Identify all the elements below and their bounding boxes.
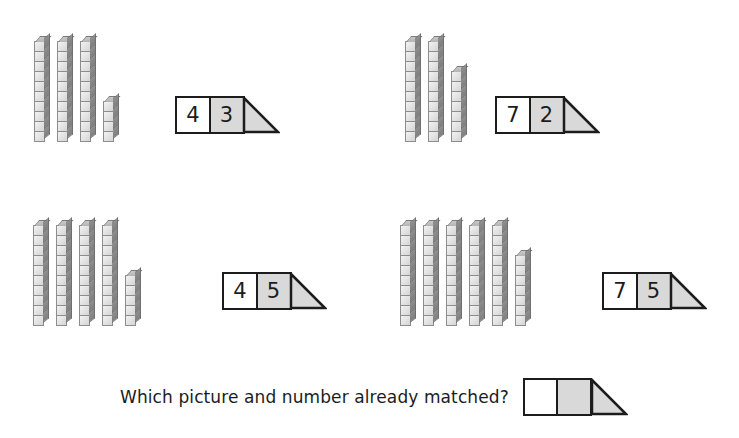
ten-rod <box>492 226 503 326</box>
unit-cube <box>102 285 113 296</box>
unit-cube <box>125 275 136 286</box>
number-card-4-ones[interactable]: 5 <box>636 272 672 310</box>
unit-cube <box>57 71 68 82</box>
unit-cube <box>492 295 503 306</box>
unit-cube <box>34 101 45 112</box>
unit-cube <box>446 315 457 326</box>
answer-number-card[interactable] <box>523 378 628 416</box>
unit-cube <box>405 121 416 132</box>
number-card-2[interactable]: 7 2 <box>495 96 600 134</box>
unit-cube <box>33 225 44 236</box>
unit-cube <box>34 111 45 122</box>
unit-cube <box>103 111 114 122</box>
unit-cube <box>80 71 91 82</box>
ten-rod <box>34 42 45 142</box>
number-card-2-tens[interactable]: 7 <box>495 96 531 134</box>
unit-cube <box>79 265 90 276</box>
ten-rod <box>102 226 113 326</box>
number-card-2-ones[interactable]: 2 <box>529 96 565 134</box>
unit-cube <box>451 91 462 102</box>
answer-card-ones[interactable] <box>556 378 592 416</box>
unit-cube <box>102 265 113 276</box>
answer-card-tens[interactable] <box>523 378 559 416</box>
number-card-4-flag-triangle <box>669 272 707 310</box>
number-card-4[interactable]: 7 5 <box>602 272 707 310</box>
unit-cube <box>492 265 503 276</box>
unit-cube <box>56 255 67 266</box>
unit-cube <box>34 81 45 92</box>
unit-cube <box>79 275 90 286</box>
unit-cube <box>469 295 480 306</box>
unit-cube <box>79 315 90 326</box>
question-group-3: 4 5 <box>0 180 370 345</box>
unit-cube <box>56 235 67 246</box>
unit-cube <box>102 235 113 246</box>
unit-cube <box>57 131 68 142</box>
unit-cube <box>56 275 67 286</box>
unit-cube <box>34 51 45 62</box>
number-card-2-flag-triangle <box>562 96 600 134</box>
unit-cube <box>102 245 113 256</box>
ten-rod <box>80 42 91 142</box>
unit-cube <box>102 255 113 266</box>
number-card-4-tens[interactable]: 7 <box>602 272 638 310</box>
unit-cube <box>428 41 439 52</box>
unit-cube <box>469 225 480 236</box>
unit-cube <box>446 265 457 276</box>
unit-cube <box>451 71 462 82</box>
unit-cube <box>469 285 480 296</box>
unit-cube <box>515 285 526 296</box>
unit-cube <box>423 235 434 246</box>
unit-cube <box>80 81 91 92</box>
ten-rod <box>79 226 90 326</box>
number-card-3-tens[interactable]: 4 <box>222 272 258 310</box>
number-card-1-ones[interactable]: 3 <box>209 96 245 134</box>
unit-cube <box>400 255 411 266</box>
unit-cube <box>423 285 434 296</box>
number-card-3[interactable]: 4 5 <box>222 272 327 310</box>
unit-cube <box>33 275 44 286</box>
unit-cube <box>33 285 44 296</box>
unit-cube <box>79 255 90 266</box>
number-card-1[interactable]: 4 3 <box>175 96 280 134</box>
unit-cube <box>79 295 90 306</box>
unit-cube <box>446 225 457 236</box>
unit-cube <box>33 255 44 266</box>
unit-cube <box>103 131 114 142</box>
unit-cube <box>405 61 416 72</box>
ones-rod <box>451 72 462 142</box>
unit-cube <box>451 121 462 132</box>
unit-cube <box>57 121 68 132</box>
unit-cube <box>80 101 91 112</box>
unit-cube <box>515 265 526 276</box>
unit-cube <box>33 235 44 246</box>
number-card-1-tens[interactable]: 4 <box>175 96 211 134</box>
unit-cube <box>80 41 91 52</box>
ones-rod <box>125 276 136 326</box>
unit-cube <box>515 295 526 306</box>
ones-rod <box>515 256 526 326</box>
base-ten-blocks-1 <box>34 18 114 142</box>
unit-cube <box>400 225 411 236</box>
unit-cube <box>400 305 411 316</box>
unit-cube <box>33 295 44 306</box>
unit-cube <box>446 255 457 266</box>
unit-cube <box>405 71 416 82</box>
ten-rod <box>469 226 480 326</box>
question-group-2: 7 2 <box>370 0 739 180</box>
unit-cube <box>423 315 434 326</box>
number-card-1-flag-triangle <box>242 96 280 134</box>
unit-cube <box>400 285 411 296</box>
unit-cube <box>405 41 416 52</box>
question-group-4: 7 5 <box>370 180 739 345</box>
unit-cube <box>102 225 113 236</box>
unit-cube <box>400 295 411 306</box>
unit-cube <box>57 51 68 62</box>
unit-cube <box>80 131 91 142</box>
unit-cube <box>57 91 68 102</box>
unit-cube <box>492 225 503 236</box>
unit-cube <box>469 305 480 316</box>
unit-cube <box>492 275 503 286</box>
number-card-3-ones[interactable]: 5 <box>256 272 292 310</box>
base-ten-blocks-3 <box>33 202 136 326</box>
